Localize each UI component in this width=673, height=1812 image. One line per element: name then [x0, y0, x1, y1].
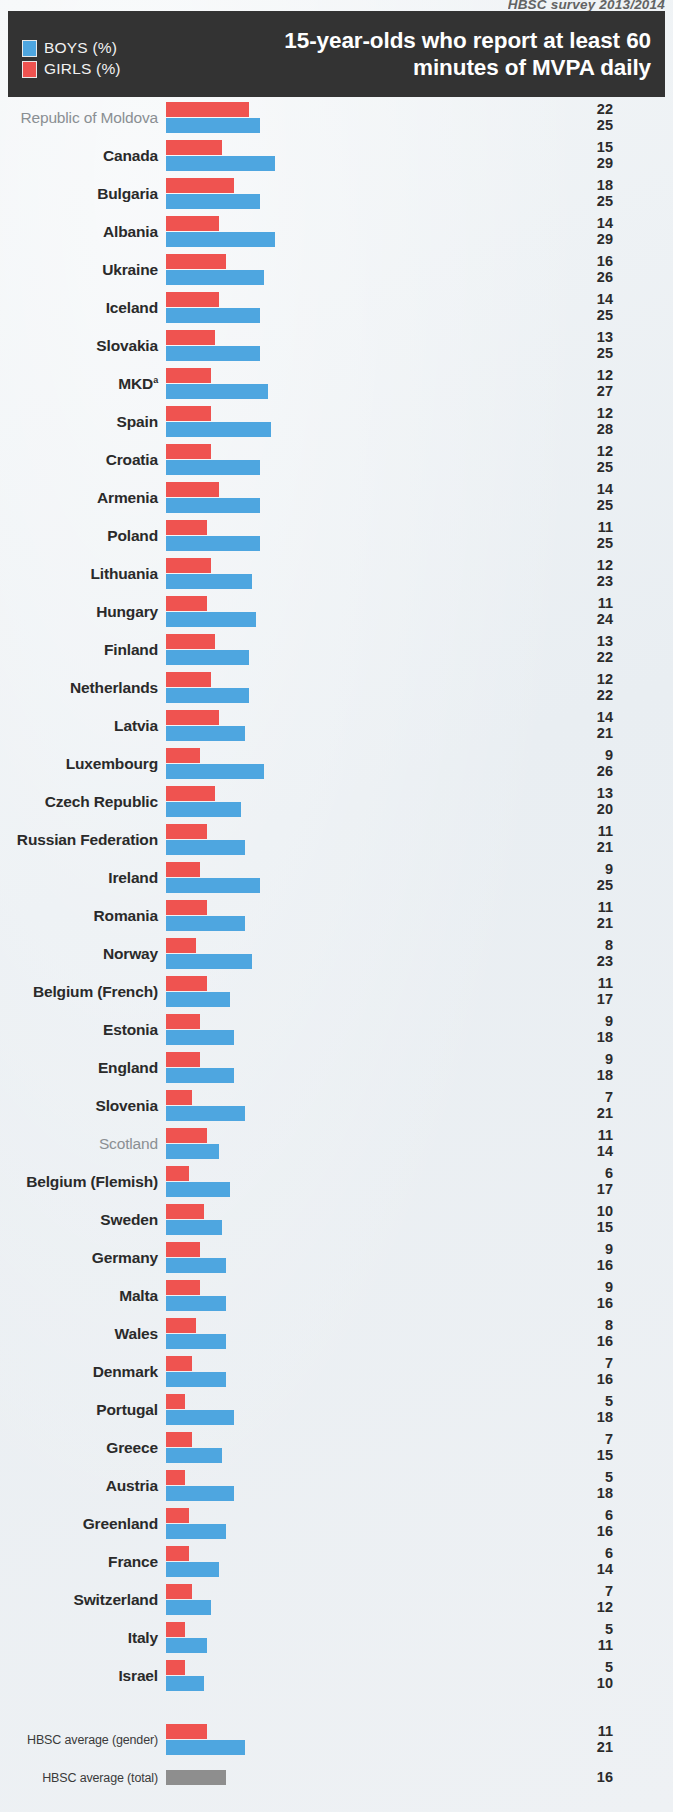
value-labels: 16 [573, 1761, 613, 1795]
bar-girls [166, 1394, 185, 1409]
value-girls: 5 [573, 1621, 613, 1637]
bar-girls [166, 1622, 185, 1637]
country-label: Sweden [0, 1212, 166, 1228]
country-label: Austria [0, 1478, 166, 1494]
country-row: Hungary1124 [0, 593, 673, 631]
bar-group: 1228 [166, 405, 673, 439]
value-labels: 614 [573, 1545, 613, 1579]
bar-group: 925 [166, 861, 673, 895]
bar-boys [166, 1372, 226, 1387]
bar-boys [166, 954, 252, 969]
value-labels: 2225 [573, 101, 613, 135]
bar-group: 1124 [166, 595, 673, 629]
value-boys: 15 [573, 1447, 613, 1463]
bar-boys [166, 1486, 234, 1501]
value-boys: 18 [573, 1485, 613, 1501]
value-boys: 25 [573, 345, 613, 361]
country-label: Norway [0, 946, 166, 962]
bar-group: 1125 [166, 519, 673, 553]
bar-group: 721 [166, 1089, 673, 1123]
country-label: Scotland [0, 1136, 166, 1152]
value-boys: 21 [573, 1105, 613, 1121]
footnote-marker: a [153, 375, 158, 385]
value-labels: 823 [573, 937, 613, 971]
bar-group: 1227 [166, 367, 673, 401]
bar-group: 1421 [166, 709, 673, 743]
country-row: France614 [0, 1543, 673, 1581]
value-labels: 918 [573, 1051, 613, 1085]
value-boys: 16 [573, 1371, 613, 1387]
country-label: Finland [0, 642, 166, 658]
country-label: Ukraine [0, 262, 166, 278]
country-label: Portugal [0, 1402, 166, 1418]
value-labels: 1222 [573, 671, 613, 705]
country-row: Spain1228 [0, 403, 673, 441]
value-labels: 916 [573, 1279, 613, 1313]
bar-boys [166, 232, 275, 247]
value-girls: 9 [573, 861, 613, 877]
value-boys: 28 [573, 421, 613, 437]
country-label: MKDa [0, 376, 166, 392]
bar-boys [166, 194, 260, 209]
bar-girls [166, 1660, 185, 1675]
value-labels: 511 [573, 1621, 613, 1655]
value-boys: 25 [573, 877, 613, 893]
bar-boys [166, 650, 249, 665]
country-label: Israel [0, 1668, 166, 1684]
bar-girls [166, 596, 207, 611]
value-girls: 7 [573, 1355, 613, 1371]
value-boys: 26 [573, 763, 613, 779]
bar-girls [166, 1128, 207, 1143]
value-boys: 25 [573, 535, 613, 551]
country-label: Germany [0, 1250, 166, 1266]
value-boys: 18 [573, 1029, 613, 1045]
bar-boys [166, 270, 264, 285]
value-boys: 17 [573, 991, 613, 1007]
bar-boys [166, 878, 260, 893]
value-labels: 1322 [573, 633, 613, 667]
country-row: Finland1322 [0, 631, 673, 669]
bar-girls [166, 710, 219, 725]
value-girls: 12 [573, 443, 613, 459]
country-row: England918 [0, 1049, 673, 1087]
country-label: Poland [0, 528, 166, 544]
value-girls: 9 [573, 1051, 613, 1067]
value-labels: 1121 [573, 1723, 613, 1757]
value-boys: 10 [573, 1675, 613, 1691]
value-girls: 18 [573, 177, 613, 193]
country-row: Luxembourg926 [0, 745, 673, 783]
bar-girls [166, 292, 219, 307]
value-boys: 25 [573, 497, 613, 513]
country-label: Belgium (French) [0, 984, 166, 1000]
bar-group: 1429 [166, 215, 673, 249]
bar-boys [166, 726, 245, 741]
country-row: Iceland1425 [0, 289, 673, 327]
value-girls: 11 [573, 595, 613, 611]
value-girls: 12 [573, 405, 613, 421]
country-label: Russian Federation [0, 832, 166, 848]
country-label: Spain [0, 414, 166, 430]
value-girls: 11 [573, 519, 613, 535]
value-girls: 11 [573, 899, 613, 915]
value-boys: 29 [573, 155, 613, 171]
country-label: Switzerland [0, 1592, 166, 1608]
country-row: Bulgaria1825 [0, 175, 673, 213]
bar-group: 614 [166, 1545, 673, 1579]
bar-group: 916 [166, 1279, 673, 1313]
bar-total [166, 1770, 226, 1785]
country-row: Italy511 [0, 1619, 673, 1657]
bar-group: 916 [166, 1241, 673, 1275]
country-label: Belgium (Flemish) [0, 1174, 166, 1190]
value-labels: 1421 [573, 709, 613, 743]
bar-girls [166, 900, 207, 915]
bar-boys [166, 156, 275, 171]
country-label: Italy [0, 1630, 166, 1646]
value-boys: 14 [573, 1561, 613, 1577]
bar-girls [166, 558, 211, 573]
value-labels: 1227 [573, 367, 613, 401]
country-row: Germany916 [0, 1239, 673, 1277]
value-girls: 13 [573, 633, 613, 649]
bar-boys [166, 1740, 245, 1755]
bar-boys [166, 1562, 219, 1577]
country-label: Republic of Moldova [0, 110, 166, 126]
